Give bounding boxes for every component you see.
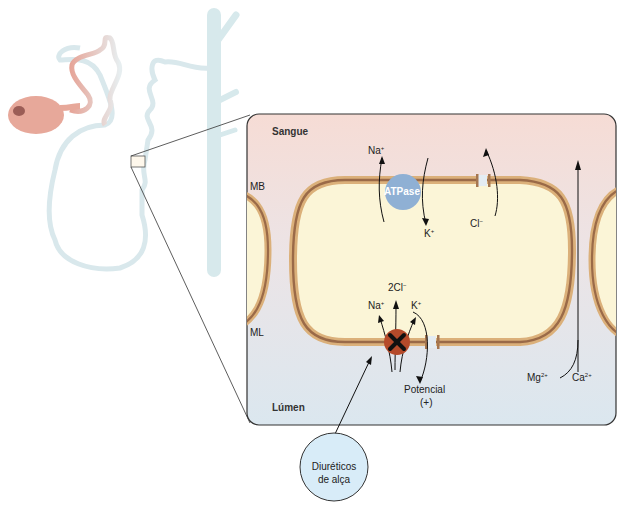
k-blood-label: K+ (424, 228, 434, 239)
blood-label: Sangue (272, 126, 308, 137)
drug-callout-text: Diuréticos de alça (297, 460, 371, 486)
lumen-label: Lúmen (272, 402, 305, 413)
2cl-lumen-label: 2Cl− (388, 282, 407, 293)
distal-tubule (49, 47, 210, 268)
na-blood-label: Na+ (368, 145, 384, 156)
drug-callout-line2: de alça (297, 473, 371, 486)
atpase-label: ATPase (384, 186, 420, 197)
luminal-membrane-label: ML (250, 327, 264, 338)
mg-label: Mg2+ (527, 372, 548, 383)
basolateral-membrane-label: MB (250, 181, 265, 192)
glomerulus (8, 96, 80, 134)
cl-blood-label: Cl− (470, 218, 483, 229)
potential-sign-label: (+) (420, 397, 433, 408)
k-lumen-label: K+ (411, 300, 421, 311)
nephron-diagram (0, 0, 622, 507)
epithelial-cell (293, 180, 572, 342)
potential-label: Potencial (404, 384, 445, 395)
collecting-duct (214, 15, 236, 270)
zoom-region-marker (131, 156, 145, 167)
drug-callout-line1: Diuréticos (297, 460, 371, 473)
na-lumen-label: Na+ (368, 300, 384, 311)
ca-label: Ca2+ (572, 372, 592, 383)
